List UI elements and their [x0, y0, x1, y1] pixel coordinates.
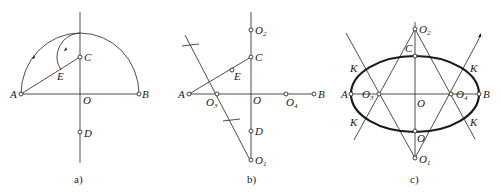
- point-b: [137, 92, 141, 96]
- label-o2: O2: [419, 23, 431, 37]
- label-d: D: [83, 127, 92, 139]
- caption-a: a): [74, 173, 83, 186]
- label-o1: O1: [419, 153, 430, 167]
- label-k-lower-right: K: [469, 116, 478, 128]
- label-o3: O3: [362, 88, 374, 102]
- label-b: B: [483, 88, 490, 100]
- label-k-lower-left: K: [349, 116, 358, 128]
- point-o2: [249, 28, 253, 32]
- caption-c: c): [410, 173, 419, 186]
- point-b: [312, 92, 316, 96]
- cross-mark: [223, 119, 240, 121]
- label-o4: O4: [286, 96, 298, 110]
- point-c: [78, 55, 82, 59]
- label-d: D: [254, 125, 263, 137]
- label-c: C: [405, 42, 413, 54]
- point-o2: [413, 27, 417, 31]
- point-a: [349, 92, 353, 96]
- point-o4: [449, 92, 453, 96]
- caption-b: b): [247, 173, 257, 186]
- line-ac: [21, 57, 80, 94]
- label-b: B: [142, 88, 149, 100]
- line-ac: [189, 57, 251, 94]
- arrow-icon: [64, 47, 67, 51]
- label-o-bottom: O: [417, 132, 425, 144]
- label-o2: O2: [255, 24, 267, 38]
- point-c: [413, 54, 417, 58]
- label-k-upper-right: K: [469, 62, 478, 74]
- point-b: [477, 92, 481, 96]
- panel-c: A B C O O O2 O1 O3 O4 K K K K c): [340, 22, 490, 186]
- point-o3: [377, 92, 381, 96]
- point-o1: [249, 158, 253, 162]
- label-a: A: [177, 88, 185, 100]
- label-o: O: [83, 94, 91, 106]
- label-c: C: [255, 51, 263, 63]
- label-o1: O1: [255, 154, 266, 168]
- point-c: [249, 55, 253, 59]
- point-d: [78, 130, 82, 134]
- point-d: [249, 129, 253, 133]
- label-c: C: [84, 51, 92, 63]
- label-o4: O4: [456, 88, 468, 102]
- label-e: E: [233, 70, 241, 82]
- label-e: E: [56, 70, 64, 82]
- label-b: B: [318, 88, 325, 100]
- point-a: [187, 92, 191, 96]
- panel-b: A B C D E O O2 O1 O3 O4 b): [177, 12, 325, 186]
- label-o: O: [417, 97, 425, 109]
- ellipse-construction-figure: A B C D E O a) A B C D E O O2 O1 O3 O4 b…: [0, 0, 501, 195]
- perpendicular-bisector: [185, 35, 251, 162]
- label-a: A: [9, 88, 17, 100]
- panel-a: A B C D E O a): [9, 12, 149, 186]
- line-o2-o4: [415, 29, 475, 139]
- point-o1: [413, 156, 417, 160]
- point-a: [19, 92, 23, 96]
- label-k-upper-left: K: [349, 62, 358, 74]
- label-o: O: [253, 94, 261, 106]
- arrow-icon: [478, 33, 481, 37]
- point-o3: [215, 92, 219, 96]
- label-o3: O3: [206, 96, 218, 110]
- label-a: A: [340, 88, 348, 100]
